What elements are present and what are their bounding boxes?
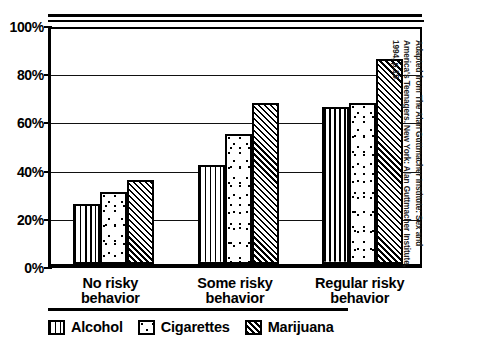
- category-label-1: No riskybehavior: [48, 276, 173, 306]
- chart-top-rule-inner: [48, 20, 424, 22]
- plot-area: [48, 27, 422, 268]
- y-tick-label-80%: 80%: [17, 67, 44, 83]
- bar-cigarettes-group-3: [349, 103, 376, 264]
- gridline-100%: [51, 27, 420, 29]
- y-tick-label-0%: 0%: [24, 260, 44, 276]
- bar-chart-figure: 0%20%40%60%80%100% AlcoholCigarettesMari…: [0, 0, 493, 342]
- y-tick-label-40%: 40%: [17, 164, 44, 180]
- bar-alcohol-group-1: [73, 204, 100, 264]
- y-tick-label-100%: 100%: [9, 19, 44, 35]
- legend-label-alcohol: Alcohol: [71, 319, 123, 335]
- y-tick-label-60%: 60%: [17, 115, 44, 131]
- legend-item-cigarettes: Cigarettes: [138, 319, 230, 335]
- gridline-80%: [51, 75, 420, 76]
- legend-swatch-alcohol-icon: [48, 320, 65, 335]
- bar-cigarettes-group-1: [100, 192, 127, 264]
- bar-alcohol-group-2: [198, 165, 225, 264]
- category-label-3: Regular riskybehavior: [297, 276, 422, 306]
- legend-swatch-marijuana-icon: [245, 320, 262, 335]
- chart-legend: AlcoholCigarettesMarijuana: [48, 308, 348, 338]
- category-label-2: Some riskybehavior: [173, 276, 298, 306]
- bar-marijuana-group-1: [127, 180, 154, 264]
- legend-swatch-cigarettes-icon: [138, 320, 155, 335]
- y-axis: 0%20%40%60%80%100%: [0, 27, 44, 268]
- legend-item-marijuana: Marijuana: [245, 319, 334, 335]
- source-note: Adapted from The Alan Guttmacher Institu…: [390, 40, 425, 276]
- legend-label-cigarettes: Cigarettes: [161, 319, 230, 335]
- legend-label-marijuana: Marijuana: [268, 319, 334, 335]
- bar-cigarettes-group-2: [225, 134, 252, 264]
- y-tick-label-20%: 20%: [17, 212, 44, 228]
- bar-marijuana-group-2: [252, 103, 279, 264]
- legend-item-alcohol: Alcohol: [48, 319, 123, 335]
- chart-top-rule-outer: [48, 14, 422, 17]
- bar-alcohol-group-3: [322, 107, 349, 264]
